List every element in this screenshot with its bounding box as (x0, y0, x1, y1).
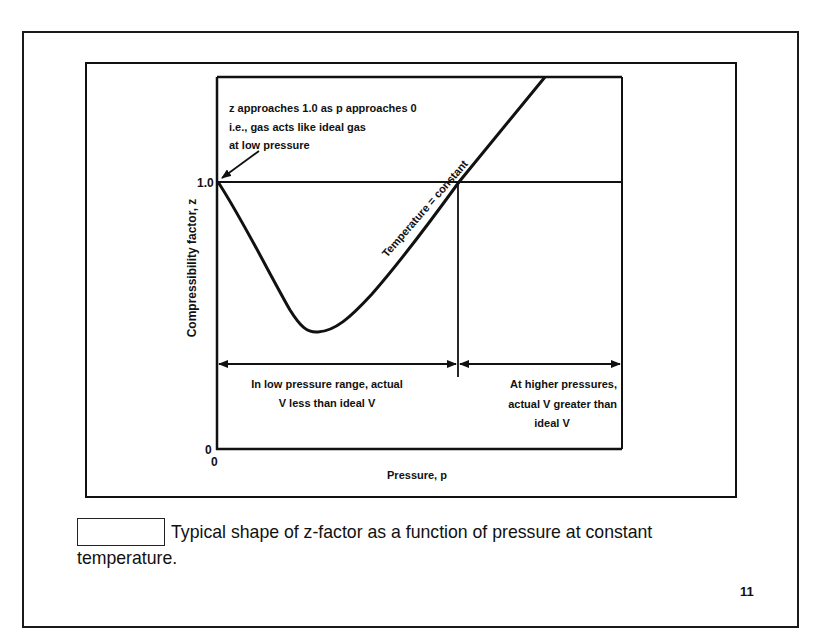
left-region-text-2: V less than ideal V (279, 397, 376, 409)
figure-number-box (77, 518, 165, 546)
figure-caption: Typical shape of z-factor as a function … (171, 520, 729, 544)
y-tick-1: 1.0 (197, 176, 214, 190)
y-axis-label: Compressibility factor, z (185, 199, 199, 338)
right-region-text-1: At higher pressures, (510, 378, 617, 390)
note-line-2: i.e., gas acts like ideal gas (229, 121, 366, 133)
right-region-text-3: ideal V (534, 417, 570, 429)
figure-caption-continued: temperature. (77, 546, 177, 570)
right-region-text-2: actual V greater than (508, 398, 617, 410)
x-axis-label: Pressure, p (387, 469, 447, 481)
curve-label: Temperature = constant (379, 157, 470, 259)
page-number: 11 (740, 584, 754, 599)
note-arrow (222, 151, 259, 178)
left-region-text-1: In low pressure range, actual (251, 378, 403, 390)
note-line-3: at low pressure (229, 139, 310, 151)
x-tick-0: 0 (211, 455, 218, 469)
z-factor-curve (218, 77, 545, 332)
note-line-1: z approaches 1.0 as p approaches 0 (229, 102, 417, 114)
